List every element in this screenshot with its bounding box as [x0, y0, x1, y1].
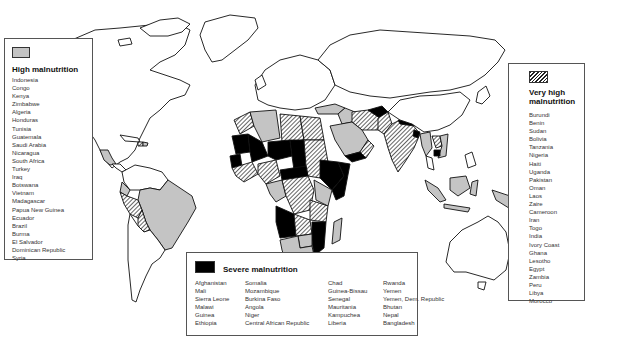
java — [444, 204, 470, 212]
very-high-malnutrition-hatch-swatch-icon — [529, 71, 548, 83]
list-item: Rwanda — [383, 279, 444, 287]
list-item: Mozambique — [245, 287, 309, 295]
list-item: Laos — [529, 192, 559, 200]
sumatra — [425, 180, 446, 202]
legend-title: Severe malnutrition — [223, 265, 298, 274]
legend-title: Very high malnutrition — [529, 88, 575, 106]
mozambique — [312, 222, 326, 256]
list-item: Ethiopia — [195, 319, 229, 327]
list-item: Bhutan — [383, 303, 444, 311]
list-item: Libya — [529, 289, 559, 297]
list-item: Tanzania — [529, 143, 559, 151]
list-item: Turkey — [12, 165, 65, 173]
india — [384, 120, 420, 172]
list-item: Bolivia — [529, 135, 559, 143]
list-item: Mali — [195, 287, 229, 295]
list-item: Lesotho — [529, 257, 559, 265]
malay — [426, 156, 434, 170]
list-item: Nicaragua — [12, 149, 65, 157]
list-item: Morocco — [529, 297, 559, 305]
severe-malnutrition-swatch-icon — [195, 261, 215, 273]
list-item: Nigeria — [529, 151, 559, 159]
legend-severe-malnutrition: Severe malnutrition Afghanistan Mali Sie… — [186, 252, 418, 336]
list-item: Algeria — [12, 108, 65, 116]
list-item: Oman — [529, 184, 559, 192]
list-item: Kampuchea — [328, 311, 367, 319]
list-item: Burkina Faso — [245, 295, 309, 303]
list-item: Congo — [12, 84, 65, 92]
legend-very-high-malnutrition: Very high malnutrition Burundi Benin Sud… — [508, 63, 585, 301]
list-item: India — [529, 232, 559, 240]
list-item: Cameroon — [529, 208, 559, 216]
legend-title: High malnutrition — [12, 65, 78, 74]
legend-high-malnutrition: High malnutrition Indonesia Congo Kenya … — [4, 38, 93, 260]
list-item: Senegal — [328, 295, 367, 303]
list-item: Kenya — [12, 92, 65, 100]
sulawesi — [470, 180, 478, 196]
list-item: Sudan — [529, 127, 559, 135]
list-item: Saudi Arabia — [12, 141, 65, 149]
list-item: Central African Republic — [245, 319, 309, 327]
russia — [318, 30, 505, 98]
list-item: Honduras — [12, 116, 65, 124]
list-item: South Africa — [12, 157, 65, 165]
list-item: Yemen — [383, 287, 444, 295]
list-item: Madagascar — [12, 197, 65, 205]
greenland — [200, 15, 258, 62]
list-item: Ghana — [529, 249, 559, 257]
list-item: Sierra Leone — [195, 295, 229, 303]
list-item: Somalia — [245, 279, 309, 287]
list-item: Chad — [328, 279, 367, 287]
country-column: Afghanistan Mali Sierra Leone Malawi Gui… — [195, 279, 229, 328]
list-item: Iraq — [12, 173, 65, 181]
egypt — [300, 116, 324, 140]
country-column: Somalia Mozambique Burkina Faso Angola N… — [245, 279, 309, 328]
list-item: Zambia — [529, 273, 559, 281]
mauritania — [232, 134, 250, 154]
list-item: Guatemala — [12, 133, 65, 141]
list-item: Syria — [12, 254, 65, 262]
list-item: Iran — [529, 216, 559, 224]
list-item: Egypt — [529, 265, 559, 273]
list-item: Botswana — [12, 181, 65, 189]
list-item: Dominican Republic — [12, 246, 65, 254]
high-malnutrition-swatch-icon — [12, 47, 30, 58]
list-item: Afghanistan — [195, 279, 229, 287]
country-list: Indonesia Congo Kenya Zimbabwe Algeria H… — [12, 76, 65, 262]
list-item: Burma — [12, 230, 65, 238]
list-item: Ivory Coast — [529, 241, 559, 249]
niger — [268, 140, 292, 160]
country-column: Rwanda Yemen Yemen, Dem. Republic Bhutan… — [383, 279, 444, 328]
list-item: Togo — [529, 224, 559, 232]
list-item: Papua New Guinea — [12, 206, 65, 214]
list-item: Bangladesh — [383, 319, 444, 327]
list-item: Zaire — [529, 200, 559, 208]
list-item: Yemen, Dem. Republic — [383, 295, 444, 303]
list-item: Pakistan — [529, 176, 559, 184]
australia — [446, 216, 510, 280]
list-item: Brazil — [12, 222, 65, 230]
country-list: Burundi Benin Sudan Bolivia Tanzania Nig… — [529, 111, 559, 305]
list-item: Nepal — [383, 311, 444, 319]
list-item: Uganda — [529, 168, 559, 176]
list-item: Vietnam — [12, 189, 65, 197]
list-item: Indonesia — [12, 76, 65, 84]
list-item: Mauritania — [328, 303, 367, 311]
list-item: Guinea-Bissau — [328, 287, 367, 295]
list-item: Zimbabwe — [12, 100, 65, 108]
list-item: Burundi — [529, 111, 559, 119]
list-item: Guinea — [195, 311, 229, 319]
chad — [290, 140, 306, 170]
list-item: Niger — [245, 311, 309, 319]
zambia — [294, 214, 312, 236]
borneo — [450, 176, 470, 196]
list-item: Haiti — [529, 160, 559, 168]
list-item: Ecuador — [12, 214, 65, 222]
kampuchea — [434, 150, 440, 156]
list-item: Peru — [529, 281, 559, 289]
burma — [420, 132, 432, 156]
list-item: Malawi — [195, 303, 229, 311]
list-item: Tunisia — [12, 125, 65, 133]
list-item: El Salvador — [12, 238, 65, 246]
nigeria — [258, 160, 280, 184]
